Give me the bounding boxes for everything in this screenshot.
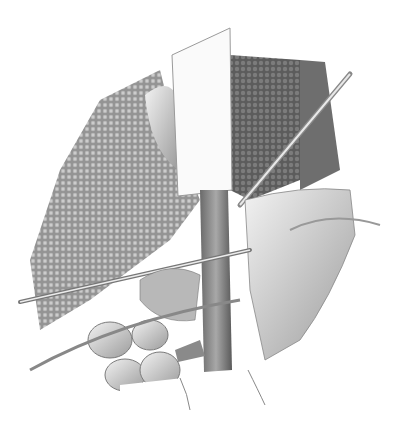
vessel <box>200 190 232 372</box>
surgical-illustration <box>0 0 408 421</box>
liver-tissue-right <box>230 55 340 200</box>
retracted-tissue-right <box>245 189 355 360</box>
fibrous-tissue <box>140 269 200 321</box>
vessel-branch <box>175 340 205 362</box>
retractor-blade <box>172 28 232 196</box>
